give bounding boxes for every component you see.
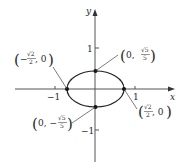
y-axis-label: y <box>85 6 92 16</box>
label-right-vertex: ( √2 2 , 0 ) <box>138 103 172 121</box>
svg-text:√5: √5 <box>141 46 149 53</box>
y-axis-arrow-icon <box>93 9 98 16</box>
x-tick-1: 1 <box>133 92 139 102</box>
svg-text:, 0: , 0 <box>152 107 164 117</box>
y-tick-neg1: −1 <box>81 126 94 136</box>
label-bottom-vertex: ( 0, − √5 5 ) <box>32 114 73 133</box>
svg-text:(: ( <box>14 51 20 69</box>
svg-text:(: ( <box>138 103 144 121</box>
leader-bottom <box>72 107 96 123</box>
svg-text:2: 2 <box>146 111 150 118</box>
svg-text:): ) <box>166 103 172 121</box>
x-axis-label: x <box>170 92 175 102</box>
svg-text:(: ( <box>120 47 126 65</box>
svg-text:√5: √5 <box>58 114 66 121</box>
svg-text:): ) <box>150 47 156 65</box>
y-tick-1: 1 <box>87 44 93 54</box>
svg-text:0,: 0, <box>126 50 135 60</box>
svg-text:): ) <box>48 51 54 69</box>
svg-text:2: 2 <box>29 58 33 65</box>
svg-text:): ) <box>67 115 73 133</box>
leader-top <box>96 55 119 71</box>
svg-text:5: 5 <box>143 54 147 61</box>
ellipse-diagram: −1 1 x 1 −1 y ( 0, √5 5 ) ( − √2 2 , 0 <box>0 0 184 165</box>
x-axis-arrow-icon <box>168 87 175 92</box>
svg-text:√2: √2 <box>27 50 35 57</box>
leader-left <box>53 67 67 89</box>
y-axis: 1 −1 y <box>81 6 99 162</box>
svg-text:, 0: , 0 <box>35 54 47 64</box>
svg-text:√2: √2 <box>144 103 152 110</box>
svg-text:(: ( <box>32 115 38 133</box>
x-tick-neg1: −1 <box>47 92 60 102</box>
label-top-vertex: ( 0, √5 5 ) <box>120 46 156 65</box>
label-left-vertex: ( − √2 2 , 0 ) <box>14 50 54 69</box>
svg-text:5: 5 <box>60 122 64 129</box>
svg-text:0, −: 0, − <box>38 118 57 128</box>
